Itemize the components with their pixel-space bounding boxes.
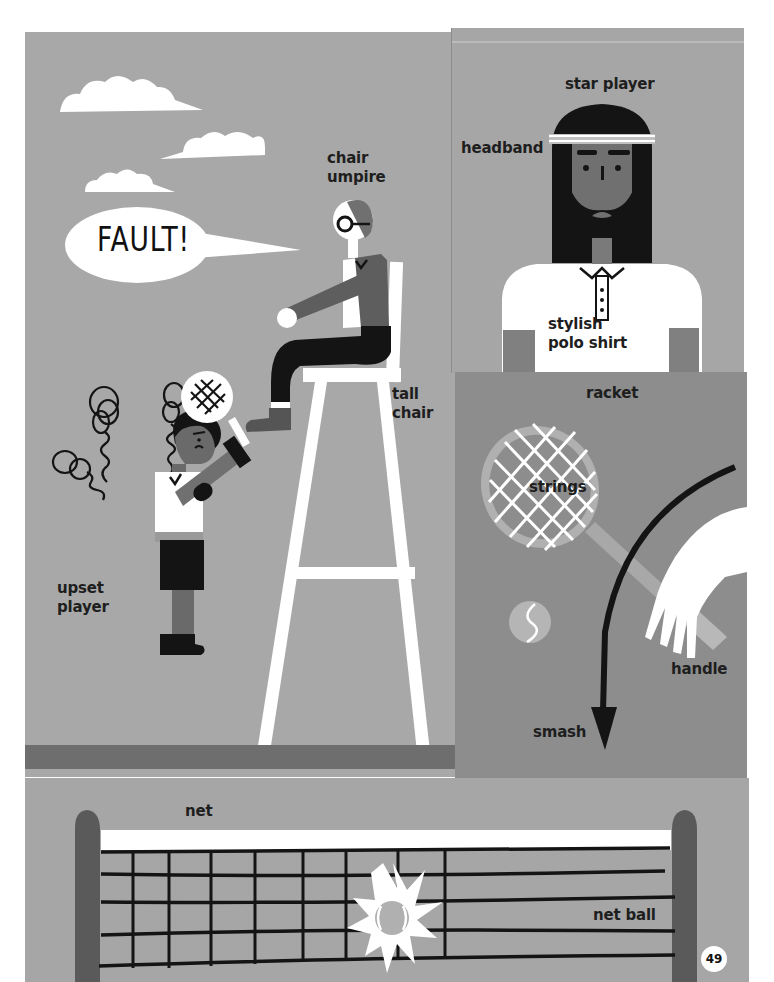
label-headband: headband bbox=[461, 139, 543, 158]
cloud-icon bbox=[60, 76, 203, 112]
tennis-ball-icon bbox=[509, 601, 551, 643]
label-smash: smash bbox=[533, 723, 586, 742]
net-panel: net net ball 49 bbox=[25, 778, 749, 982]
tall-chair bbox=[257, 262, 430, 752]
star-player-panel: star player headband stylish polo shirt bbox=[451, 28, 744, 373]
net-post-right bbox=[672, 810, 697, 982]
label-net-ball: net ball bbox=[593, 906, 656, 925]
label-chair-umpire: chair umpire bbox=[327, 149, 386, 187]
court-floor bbox=[25, 745, 458, 769]
net-post-left bbox=[75, 810, 100, 982]
page-number: 49 bbox=[701, 946, 727, 972]
label-strings: strings bbox=[529, 478, 587, 497]
net-illustration bbox=[25, 778, 749, 982]
label-racket: racket bbox=[586, 384, 638, 403]
label-star-player: star player bbox=[565, 75, 655, 94]
label-polo-shirt: stylish polo shirt bbox=[548, 315, 627, 353]
speech-bubble-text: FAULT! bbox=[97, 219, 190, 259]
label-handle: handle bbox=[671, 660, 727, 679]
label-tall-chair: tall chair bbox=[392, 385, 433, 423]
cloud-icon bbox=[85, 170, 175, 193]
racket-illustration bbox=[455, 372, 747, 778]
label-net: net bbox=[185, 802, 212, 821]
cloud-icon bbox=[160, 132, 265, 159]
racket-panel: racket strings handle smash bbox=[455, 372, 747, 778]
umpire-panel: FAULT! chair umpire tall chair upset pla… bbox=[25, 32, 458, 777]
upset-player-figure bbox=[155, 371, 251, 655]
label-upset-player: upset player bbox=[57, 579, 109, 617]
